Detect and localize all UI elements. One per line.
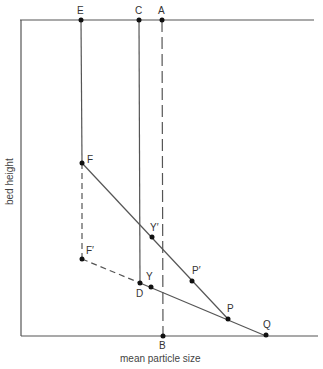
point-C: [137, 18, 142, 23]
label-E: E: [77, 5, 84, 16]
label-D: D: [136, 288, 143, 299]
line-C-D: [139, 20, 140, 283]
point-Q: [264, 333, 269, 338]
point-D: [138, 281, 143, 286]
bed-height-diagram: E C A F F′ Y′ P′ D Y P Q B mean particle…: [0, 0, 323, 369]
label-P-prime: P′: [192, 265, 201, 276]
line-Fprime-D-dashed: [82, 259, 140, 283]
label-C: C: [135, 5, 142, 16]
label-P: P: [227, 303, 234, 314]
point-B: [161, 334, 166, 339]
point-P-prime: [190, 279, 195, 284]
line-E-F: [81, 20, 82, 163]
y-axis-label: bed height: [4, 158, 15, 205]
line-F-P: [82, 163, 228, 319]
point-A: [160, 18, 165, 23]
x-axis-label: mean particle size: [120, 353, 201, 364]
point-F-prime: [80, 257, 85, 262]
label-Q: Q: [263, 319, 271, 330]
label-A: A: [158, 5, 165, 16]
point-E: [79, 18, 84, 23]
label-Y: Y: [146, 271, 153, 282]
label-F: F: [87, 154, 93, 165]
label-Y-prime: Y′: [150, 222, 159, 233]
point-P: [226, 317, 231, 322]
point-Y: [149, 285, 154, 290]
label-B: B: [159, 340, 166, 351]
line-D-Q: [140, 283, 266, 336]
line-A-B-dashed: [162, 20, 163, 336]
point-F: [80, 161, 85, 166]
label-F-prime: F′: [86, 245, 94, 256]
point-Y-prime: [150, 235, 155, 240]
